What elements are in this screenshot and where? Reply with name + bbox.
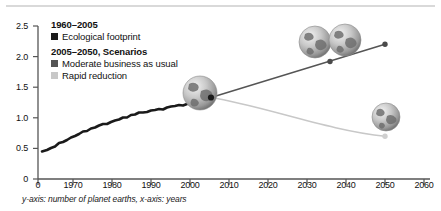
marker-branch-point-2005: [208, 94, 214, 100]
x-tick-label-2050: 2050: [368, 180, 402, 190]
legend-label-rapid-reduction: Rapid reduction: [62, 70, 127, 81]
legend-item-ecological-footprint: Ecological footprint: [51, 31, 201, 42]
series-rapid-reduction: [211, 98, 385, 137]
legend-item-moderate-business-as-usual: Moderate business as usual: [51, 58, 201, 69]
series-moderate-business-as-usual: [211, 44, 385, 97]
legend-label-ecological-footprint: Ecological footprint: [62, 31, 140, 42]
legend-group-title-historical: 1960–2005: [51, 19, 201, 30]
y-tick-label-1-5: 1.5: [6, 82, 28, 92]
chart-legend: 1960–2005 Ecological footprint 2005–2050…: [51, 19, 201, 82]
marker-endpoint-business-as-usual: [382, 42, 387, 47]
y-axis-ticks: [33, 26, 38, 179]
globe-cluster-business-as-usual: [299, 24, 361, 58]
y-tick-label-2-0: 2.0: [6, 52, 28, 62]
x-tick-label-2020: 2020: [251, 180, 285, 190]
legend-group-title-scenarios: 2005–2050, Scenarios: [51, 46, 201, 57]
y-tick-label-0-5: 0.5: [6, 143, 28, 153]
legend-swatch-rapid-reduction: [51, 72, 58, 79]
x-tick-label-0: 0: [21, 180, 55, 190]
series-ecological-footprint: [42, 98, 210, 152]
x-tick-label-2000: 2000: [173, 180, 207, 190]
legend-label-moderate-business-as-usual: Moderate business as usual: [62, 58, 178, 69]
legend-item-rapid-reduction: Rapid reduction: [51, 70, 201, 81]
legend-swatch-moderate-business-as-usual: [51, 60, 58, 67]
y-tick-label-1-0: 1.0: [6, 113, 28, 123]
chart-caption: y-axis: number of planet earths, x-axis:…: [22, 194, 187, 204]
chart-figure: 2.5 2.0 1.5 1.0 0.5 0 0 1970 1980 1990 2…: [0, 0, 441, 211]
marker-endpoint-rapid-reduction: [382, 134, 387, 139]
globe-single-rapid-reduction: [372, 103, 400, 131]
x-tick-label-2010: 2010: [212, 180, 246, 190]
x-tick-label-1990: 1990: [134, 180, 168, 190]
marker-midpoint-business-as-usual: [327, 59, 332, 64]
x-tick-label-1980: 1980: [95, 180, 129, 190]
y-tick-label-2-5: 2.5: [6, 21, 28, 31]
legend-swatch-ecological-footprint: [51, 33, 58, 40]
x-tick-label-1970: 1970: [56, 180, 90, 190]
x-tick-label-2040: 2040: [329, 180, 363, 190]
x-tick-label-2060: 2060: [407, 180, 441, 190]
x-tick-label-2030: 2030: [290, 180, 324, 190]
